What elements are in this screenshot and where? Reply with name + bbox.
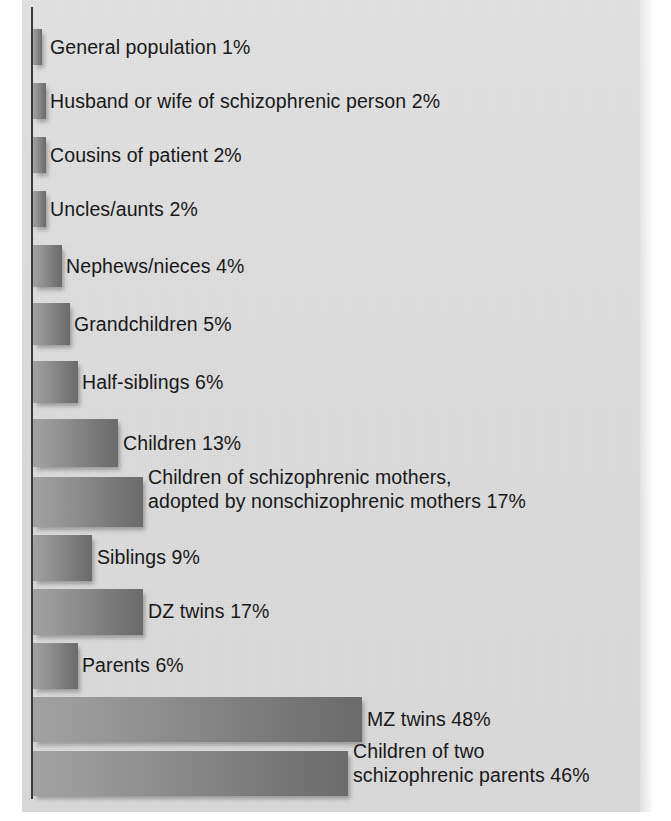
bar xyxy=(33,245,62,287)
bar xyxy=(33,697,362,742)
bar xyxy=(33,477,143,527)
figure-page: General population 1%Husband or wife of … xyxy=(0,0,671,821)
bar xyxy=(33,419,118,467)
bar-label: Half-siblings 6% xyxy=(82,371,223,395)
bar-label: Husband or wife of schizophrenic person … xyxy=(50,90,440,114)
bar xyxy=(33,303,70,345)
bar xyxy=(33,535,92,581)
bar-chart-plot: General population 1%Husband or wife of … xyxy=(0,0,671,821)
bar-label: General population 1% xyxy=(50,36,251,60)
bar-label: Uncles/aunts 2% xyxy=(50,198,198,222)
bar-label: Children of two schizophrenic parents 46… xyxy=(353,740,590,787)
bar-label: Siblings 9% xyxy=(97,546,200,570)
bar xyxy=(33,361,78,403)
bar-label: MZ twins 48% xyxy=(367,708,491,732)
bar xyxy=(33,643,78,689)
bar-label: Children of schizophrenic mothers, adopt… xyxy=(148,466,526,513)
bar xyxy=(33,83,46,119)
bar-label: Parents 6% xyxy=(82,654,184,678)
bar-label: Nephews/nieces 4% xyxy=(66,255,244,279)
bar-label: Children 13% xyxy=(123,432,241,456)
bar-label: DZ twins 17% xyxy=(148,600,270,624)
bar xyxy=(33,137,46,173)
bar xyxy=(33,29,42,65)
bar-label: Grandchildren 5% xyxy=(74,313,232,337)
bar xyxy=(33,589,143,635)
bar xyxy=(33,191,46,227)
bar xyxy=(33,751,348,796)
bar-label: Cousins of patient 2% xyxy=(50,144,242,168)
